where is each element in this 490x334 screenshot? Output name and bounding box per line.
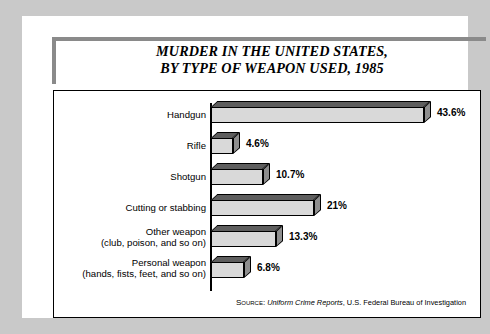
category-label-line-2: (club, poison, and so on) xyxy=(56,237,206,248)
category-label-line-1: Rifle xyxy=(187,140,206,151)
decorative-rule-left xyxy=(52,37,56,84)
bar-value-label: 13.3% xyxy=(289,231,317,242)
chart-row: Shotgun10.7% xyxy=(54,163,482,194)
category-label: Personal weapon(hands, fists, feet, and … xyxy=(56,257,206,279)
bar-front-face xyxy=(211,107,424,123)
source-prefix: Source: xyxy=(236,298,265,307)
bar-top-face xyxy=(211,194,321,200)
chart-title: MURDER IN THE UNITED STATES, BY TYPE OF … xyxy=(62,43,482,77)
chart-row: Handgun43.6% xyxy=(54,101,482,132)
category-label: Handgun xyxy=(56,109,206,120)
bar-front-face xyxy=(211,262,244,278)
bar-front-face xyxy=(211,200,314,216)
bar-front-face xyxy=(211,169,263,185)
bar-value-label: 6.8% xyxy=(257,262,280,273)
category-label: Shotgun xyxy=(56,171,206,182)
category-label-line-1: Handgun xyxy=(167,109,206,120)
source-note: Source: Uniform Crime Reports, U.S. Fede… xyxy=(236,298,466,307)
bar-value-label: 21% xyxy=(327,200,347,211)
bar-value-label: 43.6% xyxy=(437,107,465,118)
bar-value-label: 10.7% xyxy=(276,169,304,180)
bar-value-label: 4.6% xyxy=(246,138,269,149)
source-publication: Uniform Crime Reports xyxy=(267,298,343,307)
chart-row: Personal weapon(hands, fists, feet, and … xyxy=(54,256,482,287)
bar-top-face xyxy=(211,101,431,107)
category-label-line-2: (hands, fists, feet, and so on) xyxy=(56,268,206,279)
category-label: Cutting or stabbing xyxy=(56,202,206,213)
decorative-rule-top xyxy=(52,37,486,41)
chart-row: Other weapon(club, poison, and so on)13.… xyxy=(54,225,482,256)
chart-title-line-2: BY TYPE OF WEAPON USED, 1985 xyxy=(62,60,482,77)
bar-chart-plot: Handgun43.6%Rifle4.6%Shotgun10.7%Cutting… xyxy=(54,91,482,319)
category-label: Other weapon(club, poison, and so on) xyxy=(56,226,206,248)
chart-plot-frame: Handgun43.6%Rifle4.6%Shotgun10.7%Cutting… xyxy=(53,90,481,318)
source-rest: , U.S. Federal Bureau of Investigation xyxy=(343,298,466,307)
bar-top-face xyxy=(211,163,270,169)
category-label-line-1: Shotgun xyxy=(170,171,206,182)
chart-row: Cutting or stabbing21% xyxy=(54,194,482,225)
category-label: Rifle xyxy=(56,140,206,151)
category-label-line-1: Personal weapon xyxy=(132,257,206,268)
bar-front-face xyxy=(211,231,276,247)
bar-front-face xyxy=(211,138,233,154)
category-label-line-1: Cutting or stabbing xyxy=(125,202,206,213)
chart-card: MURDER IN THE UNITED STATES, BY TYPE OF … xyxy=(22,16,468,318)
bar-top-face xyxy=(211,225,283,231)
chart-title-line-1: MURDER IN THE UNITED STATES, xyxy=(62,43,482,60)
chart-row: Rifle4.6% xyxy=(54,132,482,163)
category-label-line-1: Other weapon xyxy=(146,226,206,237)
